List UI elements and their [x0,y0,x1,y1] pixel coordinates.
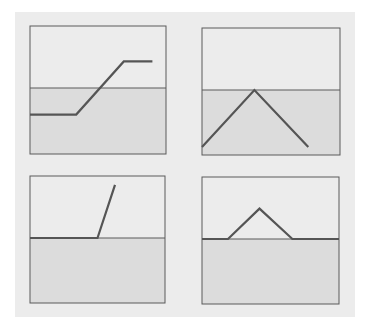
upper-region [202,28,340,90]
upper-region [30,26,166,88]
lower-region [202,90,340,155]
panel-bottom-left [30,176,165,303]
panel-bottom-right [202,177,339,304]
upper-region [30,176,165,238]
four-panel-figure [0,0,365,333]
lower-region [30,88,166,154]
lower-region [202,239,339,304]
panel-top-right [202,28,340,155]
panel-top-left [30,26,166,154]
upper-region [202,177,339,239]
lower-region [30,238,165,303]
